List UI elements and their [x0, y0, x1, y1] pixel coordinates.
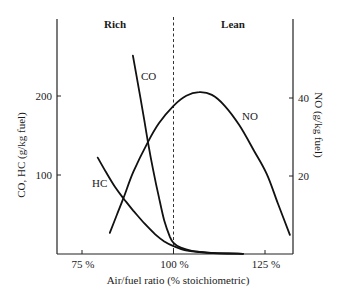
right-y-tick-label: 40	[298, 92, 310, 104]
co-series-label: CO	[141, 70, 156, 82]
no-series-label: NO	[242, 110, 258, 122]
hc-series-label: HC	[92, 177, 107, 189]
right-y-axis-label: NO (g/kg fuel)	[312, 92, 325, 158]
x-tick-label: 75 %	[72, 258, 95, 270]
rich-region-label: Rich	[104, 18, 126, 30]
x-tick-label: 100 %	[160, 258, 188, 270]
left-y-axis-label: CO, HC (g/kg fuel)	[15, 112, 28, 198]
x-axis-label: Air/fuel ratio (% stoichiometric)	[107, 274, 250, 287]
left-y-tick-label: 100	[36, 169, 53, 181]
x-tick-label: 125 %	[252, 258, 280, 270]
series-curves	[98, 56, 290, 254]
left-y-tick-label: 200	[36, 90, 53, 102]
emissions-chart: 75 %100 %125 %1002002040 Rich Lean CO HC…	[0, 0, 337, 297]
right-y-tick-label: 20	[298, 170, 310, 182]
axes	[57, 19, 293, 254]
lean-region-label: Lean	[221, 18, 245, 30]
co-curve	[133, 56, 243, 254]
